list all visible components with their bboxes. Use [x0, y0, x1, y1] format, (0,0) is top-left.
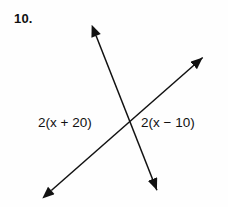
intersecting-lines-diagram [0, 0, 228, 207]
worksheet-figure: 10. 2(x + 20) 2(x − 10) [0, 0, 228, 207]
angle-label-left: 2(x + 20) [38, 116, 92, 130]
angle-label-right: 2(x − 10) [141, 116, 195, 130]
line-a-ray [96, 36, 157, 190]
